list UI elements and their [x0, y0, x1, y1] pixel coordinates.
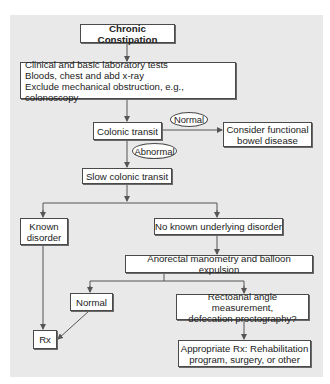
edge-label-normal: Normal [170, 112, 208, 127]
node-appropriate-rx: Appropriate Rx: Rehabilitation program, … [178, 340, 311, 367]
node-known-disorder: Known disorder [20, 218, 68, 245]
node-rx: Rx [33, 330, 57, 349]
node-functional-bowel: Consider functional bowel disease [223, 122, 312, 147]
node-no-known-disorder: No known underlying disorder [154, 218, 283, 235]
node-chronic-constipation: Chronic Constipation [80, 24, 175, 43]
node-normal-result: Normal [70, 293, 113, 311]
node-colonic-transit: Colonic transit [93, 122, 162, 140]
node-clinical-tests: Clinical and basic laboratory tests Bloo… [20, 62, 236, 99]
edge-label-abnormal: Abnormal [132, 143, 177, 159]
node-anorectal-manometry: Anorectal manometry and balloon expulsio… [125, 255, 313, 273]
node-rectoanal-angle: Rectoanal angle measurement, defecation … [176, 294, 309, 320]
node-slow-transit: Slow colonic transit [82, 168, 172, 184]
